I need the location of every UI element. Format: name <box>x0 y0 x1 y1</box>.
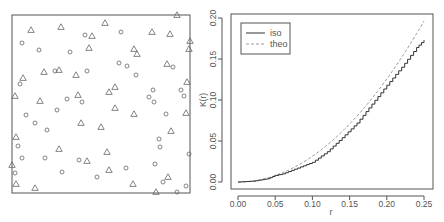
circle-marker <box>147 95 151 99</box>
circle-marker <box>43 156 47 160</box>
circle-marker <box>83 33 87 37</box>
point-pattern-panel <box>9 12 193 195</box>
circle-marker <box>171 65 175 69</box>
triangle-marker <box>153 189 159 195</box>
triangle-marker <box>112 105 118 111</box>
circle-marker <box>153 162 157 166</box>
circle-marker <box>124 166 128 170</box>
triangle-marker <box>41 69 47 75</box>
triangle-marker <box>112 84 118 90</box>
circle-marker <box>80 100 84 104</box>
circle-marker <box>68 50 72 54</box>
triangle-markers <box>9 12 193 195</box>
triangle-marker <box>37 98 43 104</box>
triangle-marker <box>183 110 189 116</box>
figure: 0.000.050.100.150.20 K(r) 0.000.050.100.… <box>0 0 444 222</box>
triangle-marker <box>104 149 110 155</box>
x-tick-label: 0.25 <box>416 199 433 209</box>
y-tick-label: 0.15 <box>208 50 218 67</box>
k-function-panel: 0.000.050.100.150.20 K(r) 0.000.050.100.… <box>198 9 433 217</box>
circle-marker <box>16 144 20 148</box>
triangle-marker <box>186 46 192 52</box>
circle-marker <box>117 61 121 65</box>
triangle-marker <box>56 146 62 152</box>
circle-marker <box>157 137 161 141</box>
circle-marker <box>20 41 24 45</box>
circle-marker <box>85 69 89 73</box>
circle-marker <box>60 170 64 174</box>
circle-markers <box>13 30 191 194</box>
triangle-marker <box>20 75 26 81</box>
triangle-marker <box>78 120 84 126</box>
x-tick-label: 0.10 <box>304 199 321 209</box>
circle-marker <box>77 158 81 162</box>
circle-marker <box>164 112 168 116</box>
triangle-marker <box>167 31 173 37</box>
y-axis-ticks: 0.000.050.100.150.20 <box>208 9 222 190</box>
window-frame <box>12 15 190 193</box>
y-tick-label: 0.00 <box>208 173 218 190</box>
circle-marker <box>37 48 41 52</box>
triangle-marker <box>58 24 64 30</box>
circle-marker <box>182 94 186 98</box>
y-tick-label: 0.20 <box>208 9 218 26</box>
circle-marker <box>13 171 17 175</box>
circle-marker <box>45 128 49 132</box>
circle-marker <box>184 184 188 188</box>
circle-marker <box>20 156 24 160</box>
circle-marker <box>95 175 99 179</box>
circle-marker <box>151 88 155 92</box>
circle-marker <box>158 145 162 149</box>
triangle-marker <box>165 174 171 180</box>
triangle-marker <box>168 128 174 134</box>
triangle-marker <box>32 185 38 191</box>
iso-curve <box>238 40 424 182</box>
triangle-marker <box>149 29 155 35</box>
circle-marker <box>65 97 69 101</box>
legend-theo-label: theo <box>270 39 288 49</box>
x-tick-label: 0.05 <box>267 199 284 209</box>
triangle-marker <box>84 158 90 164</box>
triangle-marker <box>164 61 170 67</box>
triangle-marker <box>13 181 19 187</box>
triangle-marker <box>89 33 95 39</box>
circle-marker <box>152 100 156 104</box>
circle-marker <box>179 88 183 92</box>
triangle-marker <box>131 46 137 52</box>
legend-iso-label: iso <box>270 28 282 38</box>
circle-marker <box>55 108 59 112</box>
triangle-marker <box>184 79 190 85</box>
x-tick-label: 0.15 <box>341 199 358 209</box>
triangle-marker <box>13 134 19 140</box>
x-axis-label: r <box>330 207 333 217</box>
circle-marker <box>161 180 165 184</box>
circle-marker <box>125 64 129 68</box>
circle-marker <box>33 121 37 125</box>
legend: iso theo <box>241 23 290 54</box>
y-tick-label: 0.10 <box>208 91 218 108</box>
triangle-marker <box>106 167 112 173</box>
triangle-marker <box>12 93 18 99</box>
circle-marker <box>119 30 123 34</box>
circle-marker <box>24 113 28 117</box>
triangle-marker <box>86 45 92 51</box>
triangle-marker <box>98 124 104 130</box>
circle-marker <box>134 73 138 77</box>
x-tick-label: 0.20 <box>379 199 396 209</box>
triangle-marker <box>28 27 34 33</box>
circle-marker <box>18 82 22 86</box>
triangle-marker <box>75 92 81 98</box>
triangle-marker <box>102 20 108 26</box>
triangle-marker <box>130 181 136 187</box>
triangle-marker <box>131 111 137 117</box>
triangle-marker <box>73 72 79 78</box>
x-tick-label: 0.00 <box>230 199 247 209</box>
y-axis-label: K(r) <box>198 93 208 107</box>
y-tick-label: 0.05 <box>208 132 218 149</box>
